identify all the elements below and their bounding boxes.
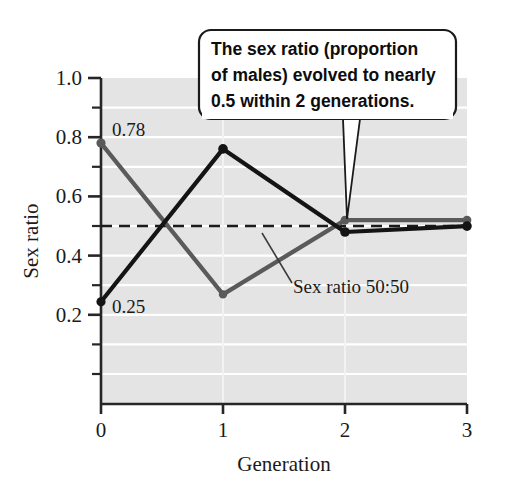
point-label-0.78: 0.78 xyxy=(112,119,145,140)
callout-line-1: The sex ratio (proportion xyxy=(211,39,418,59)
callout-line-2: of males) evolved to nearly xyxy=(211,65,436,85)
fifty-fifty-label: Sex ratio 50:50 xyxy=(293,276,409,297)
sex-ratio-line-chart: 1.0 0.8 0.6 0.4 0.2 0 1 2 3 Generation S… xyxy=(0,0,505,485)
y-axis-minor-ticks xyxy=(92,108,101,374)
callout-line-3: 0.5 within 2 generations. xyxy=(211,91,414,111)
x-axis-title: Generation xyxy=(237,452,331,476)
plot-area-background xyxy=(101,78,467,404)
y-tick-label-0.2: 0.2 xyxy=(56,303,82,327)
x-tick-label-1: 1 xyxy=(218,418,229,442)
y-axis-title: Sex ratio xyxy=(19,203,43,278)
x-axis-ticks xyxy=(101,404,467,414)
y-tick-label-0.4: 0.4 xyxy=(56,244,83,268)
figure-container: 1.0 0.8 0.6 0.4 0.2 0 1 2 3 Generation S… xyxy=(0,0,505,485)
x-tick-label-2: 2 xyxy=(340,418,351,442)
y-tick-label-1.0: 1.0 xyxy=(56,66,82,90)
y-tick-label-0.6: 0.6 xyxy=(56,184,82,208)
y-axis-major-ticks xyxy=(88,78,101,315)
y-tick-label-0.8: 0.8 xyxy=(56,125,82,149)
point-label-0.25: 0.25 xyxy=(112,296,145,317)
x-tick-label-3: 3 xyxy=(462,418,473,442)
x-tick-label-0: 0 xyxy=(96,418,107,442)
callout-seam-mask xyxy=(202,113,453,119)
